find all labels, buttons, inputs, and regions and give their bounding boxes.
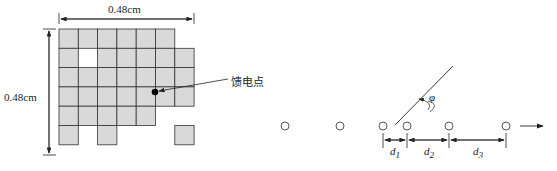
patch-cell	[156, 68, 175, 87]
height-dimension	[43, 29, 56, 155]
patch-cell	[78, 29, 97, 48]
patch-cell	[59, 106, 78, 125]
patch-cell	[59, 48, 78, 67]
patch-cell	[175, 87, 194, 106]
patch-cell	[156, 29, 175, 48]
array-element-circle	[281, 122, 289, 130]
patch-cell	[136, 48, 155, 67]
array-element-circle	[379, 122, 387, 130]
spacing-label-d3: d3	[473, 145, 483, 160]
patch-cell	[59, 29, 78, 48]
patch-cell	[98, 29, 117, 48]
width-label: 0.48cm	[108, 3, 141, 15]
angle-label: φ	[429, 91, 435, 103]
spacing-label-d2: d2	[424, 145, 434, 160]
patch-cell	[59, 126, 78, 145]
patch-cell	[78, 106, 97, 125]
patch-cell	[117, 106, 136, 125]
patch-cell	[117, 87, 136, 106]
incidence-line	[395, 66, 453, 125]
feed-point-dot	[152, 89, 159, 96]
patch-cell	[117, 48, 136, 67]
patch-grid	[59, 29, 194, 145]
patch-cell	[136, 29, 155, 48]
patch-cell	[98, 48, 117, 67]
patch-cell	[59, 87, 78, 106]
patch-cell	[175, 126, 194, 145]
patch-cell	[78, 68, 97, 87]
array-element-circle	[502, 122, 510, 130]
height-label: 0.48cm	[4, 91, 37, 103]
patch-cell	[78, 87, 97, 106]
patch-cell	[175, 68, 194, 87]
spacing-label-d1: d1	[390, 145, 400, 160]
array-element-circle	[403, 122, 411, 130]
patch-cell	[98, 126, 117, 145]
patch-cell	[59, 68, 78, 87]
array-elements	[281, 122, 510, 130]
spacing-dimensions	[383, 133, 506, 148]
patch-cell	[98, 68, 117, 87]
array-element-circle	[336, 122, 344, 130]
patch-cell	[175, 48, 194, 67]
patch-cell	[117, 68, 136, 87]
array-element-circle	[445, 122, 453, 130]
patch-cell	[136, 68, 155, 87]
patch-cell	[156, 48, 175, 67]
patch-cell	[98, 106, 117, 125]
patch-cell	[117, 29, 136, 48]
patch-cell	[98, 87, 117, 106]
patch-cell	[136, 106, 155, 125]
feed-point-label: 馈电点	[231, 73, 264, 89]
